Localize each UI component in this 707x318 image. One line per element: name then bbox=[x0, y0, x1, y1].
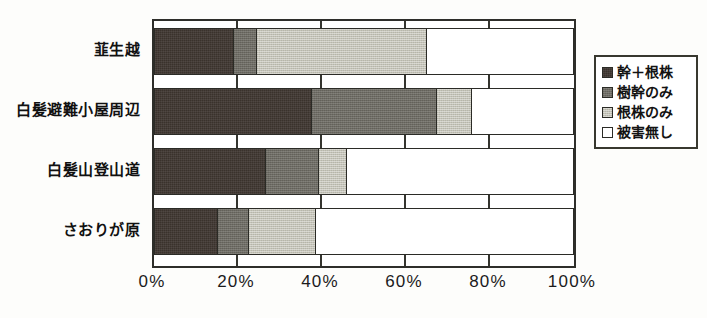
legend-swatch-icon-1 bbox=[602, 87, 613, 98]
xtick-label-3: 60% bbox=[385, 272, 423, 292]
legend-item-3: 被害無し bbox=[602, 122, 692, 142]
bar-segment bbox=[316, 208, 574, 255]
legend-item-2: 根株のみ bbox=[602, 102, 692, 122]
bar-segment bbox=[319, 148, 347, 195]
xtick-label-0: 0% bbox=[139, 272, 166, 292]
bar-segment bbox=[257, 28, 427, 75]
bar-segment bbox=[266, 148, 319, 195]
legend-label-2: 根株のみ bbox=[617, 105, 673, 119]
bar-segment bbox=[427, 28, 574, 75]
bar-segment bbox=[347, 148, 574, 195]
plot-area bbox=[152, 19, 576, 268]
legend-item-1: 樹幹のみ bbox=[602, 82, 692, 102]
legend-swatch-icon-3 bbox=[602, 127, 613, 138]
legend-label-1: 樹幹のみ bbox=[617, 85, 673, 99]
legend-label-0: 幹＋根株 bbox=[617, 65, 673, 79]
bar-segment bbox=[154, 148, 266, 195]
category-label-2: 白髪山登山道 bbox=[0, 162, 140, 177]
bar-segment bbox=[234, 28, 257, 75]
category-label-3: さおりが原 bbox=[0, 222, 140, 237]
category-label-0: 韮生越 bbox=[0, 42, 140, 57]
bar-segment bbox=[312, 88, 437, 135]
bar-segment bbox=[218, 208, 249, 255]
bar-segment bbox=[154, 88, 312, 135]
category-label-1: 白髪避難小屋周辺 bbox=[0, 102, 140, 117]
legend-swatch-icon-0 bbox=[602, 67, 613, 78]
table-row bbox=[154, 208, 574, 255]
xtick-label-4: 80% bbox=[469, 272, 507, 292]
table-row bbox=[154, 28, 574, 75]
bar-segment bbox=[437, 88, 472, 135]
bar-segment bbox=[249, 208, 316, 255]
xtick-label-2: 40% bbox=[301, 272, 339, 292]
legend: 幹＋根株 樹幹のみ 根株のみ 被害無し bbox=[594, 55, 698, 149]
y-axis-category-labels: 韮生越 白髪避難小屋周辺 白髪山登山道 さおりが原 bbox=[0, 28, 146, 256]
legend-label-3: 被害無し bbox=[617, 125, 673, 139]
stacked-bar-chart: 韮生越 白髪避難小屋周辺 白髪山登山道 さおりが原 0% 20% 40% 60%… bbox=[0, 0, 707, 318]
bar-segment bbox=[154, 28, 234, 75]
bar-segment bbox=[154, 208, 218, 255]
table-row bbox=[154, 148, 574, 195]
bar-segment bbox=[472, 88, 574, 135]
cropped-caption bbox=[152, 312, 382, 318]
legend-item-0: 幹＋根株 bbox=[602, 62, 692, 82]
xtick-label-5: 100% bbox=[548, 272, 596, 292]
xtick-label-1: 20% bbox=[217, 272, 255, 292]
table-row bbox=[154, 88, 574, 135]
legend-swatch-icon-2 bbox=[602, 107, 613, 118]
